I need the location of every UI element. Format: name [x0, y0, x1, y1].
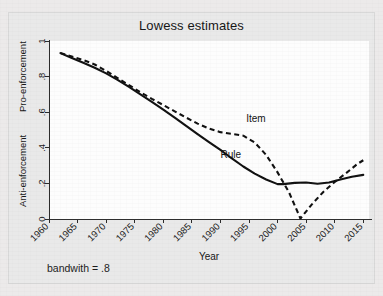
y-tick-label: .8 — [36, 73, 47, 81]
lowess-chart-figure: Lowess estimates 0.2.4.6.81 196019651970… — [0, 0, 383, 296]
y-axis-region-label: Pro-enforcement — [17, 41, 28, 112]
x-tick-label: 2010 — [313, 221, 336, 244]
x-tick-label: 2015 — [342, 221, 365, 244]
x-axis-ticks: 1960196519701975198019851990199520002005… — [28, 219, 365, 243]
y-tick-label: .6 — [36, 108, 47, 116]
series-line-rule — [60, 53, 363, 184]
x-tick-label: 1995 — [228, 221, 251, 244]
y-tick-label: .2 — [36, 179, 47, 187]
x-tick-label: 1970 — [85, 221, 108, 244]
y-axis-ticks: 0.2.4.6.81 — [36, 38, 49, 221]
x-tick-label: 2005 — [285, 221, 308, 244]
y-axis-region-labels: Pro-enforcementAnti-enforcement — [17, 41, 28, 207]
x-tick-label: 2000 — [256, 221, 279, 244]
y-tick-label: 1 — [36, 38, 47, 43]
y-tick-label: .4 — [36, 144, 47, 152]
x-tick-label: 1965 — [56, 221, 79, 244]
x-tick-label: 1985 — [171, 221, 194, 244]
y-axis-region-label: Anti-enforcement — [17, 134, 28, 207]
x-tick-label: 1960 — [28, 221, 51, 244]
series-line-item — [60, 53, 363, 218]
series-layer — [60, 53, 363, 218]
x-axis-title: Year — [49, 251, 369, 262]
bandwidth-footnote: bandwith = .8 — [47, 262, 110, 274]
y-tick-label: 0 — [36, 216, 47, 221]
x-tick-label: 1980 — [142, 221, 165, 244]
x-tick-label: 1975 — [113, 221, 136, 244]
x-tick-label: 1990 — [199, 221, 222, 244]
series-label-item: Item — [246, 113, 265, 124]
series-label-rule: Rule — [220, 149, 241, 160]
